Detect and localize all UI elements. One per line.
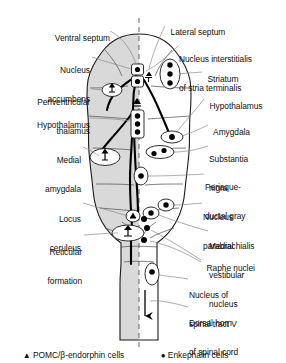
periaqueductal-gray-oval (134, 167, 148, 185)
label-hypothalamus-left: Hypothalamus (14, 111, 90, 130)
hypothalamus-box (131, 110, 144, 138)
label-text: Periaque- (205, 183, 245, 193)
label-text: Nucleus interstitialis (179, 55, 252, 65)
label-text: Reticular (14, 248, 82, 258)
label-amygdala: Amygdala (209, 118, 250, 137)
label-text: Hypothalamus (210, 101, 263, 111)
legend-pomc-label: POMC/β-endorphin cells (33, 350, 124, 360)
label-hypothalamus-right: Hypothalamus (205, 92, 263, 111)
substantia-nigra-oval (146, 146, 174, 159)
nucleus-interstitialis-box (132, 64, 144, 75)
label-reticular-formation: Reticular formation (14, 229, 82, 296)
label-lateral-septum: Lateral septum (166, 18, 225, 37)
locus-ceruleus-marker (126, 210, 140, 222)
nucleus-parabrachialis-oval (158, 199, 174, 211)
label-text: Periventricular (6, 98, 90, 108)
label-text: Ventral septum (55, 33, 110, 43)
nucleus-spinal-tract-v-oval (145, 263, 159, 285)
label-text: Dorsal horn (189, 319, 238, 329)
label-text: formation (14, 277, 82, 287)
label-text: Nucleus (20, 66, 90, 76)
periventricular-thalamus-oval (102, 83, 122, 97)
legend-pomc: ▲ POMC/β-endorphin cells (18, 340, 124, 361)
striatum-oval (160, 59, 180, 89)
label-text: Medial (18, 156, 81, 166)
label-text: Hypothalamus (37, 120, 90, 130)
lateral-septum-box (132, 76, 144, 87)
label-medial-amygdala: Medial amygdala (18, 137, 81, 204)
legend-enkephalin: ● Enkephalin cells (156, 340, 228, 361)
label-text: Locus (20, 215, 81, 225)
amygdala-oval (161, 131, 183, 143)
label-text: Medial (209, 242, 244, 252)
legend-enkephalin-label: Enkephalin cells (168, 350, 229, 360)
label-ventral-septum: Ventral septum (28, 24, 110, 43)
triangle-marker-icon: ▲ (23, 351, 31, 360)
label-text: Striatum (208, 74, 239, 84)
medial-amygdala-oval (90, 149, 120, 166)
label-raphe-nuclei: Raphe nuclei (202, 254, 255, 273)
label-text: amygdala (18, 185, 81, 195)
label-text: Nucleus (203, 213, 254, 223)
label-striatum: Striatum (203, 65, 238, 84)
